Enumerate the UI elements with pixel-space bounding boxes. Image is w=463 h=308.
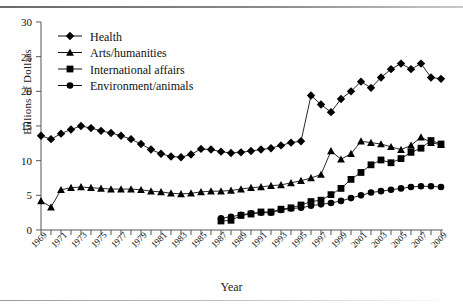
data-point-diamond xyxy=(237,148,245,156)
legend-marker-diamond xyxy=(66,32,74,40)
data-point-triangle xyxy=(357,137,365,144)
legend-marker-circle xyxy=(67,82,74,89)
data-point-diamond xyxy=(257,145,265,153)
data-point-circle xyxy=(418,183,425,190)
data-point-circle xyxy=(268,209,275,216)
y-tick-label: 0 xyxy=(27,224,33,236)
data-point-diamond xyxy=(407,65,415,73)
x-tick-label: 1975 xyxy=(89,230,109,250)
x-tick-label: 1987 xyxy=(209,230,229,250)
data-point-triangle xyxy=(317,171,325,178)
legend-label: Environment/animals xyxy=(90,79,194,93)
data-point-circle xyxy=(368,189,375,196)
chart-legend: HealthArts/humanitiesInternational affai… xyxy=(58,30,194,94)
data-point-square xyxy=(368,161,375,168)
bottom-divider-rule xyxy=(0,300,463,301)
data-point-circle xyxy=(328,200,335,207)
data-point-circle xyxy=(378,188,385,195)
data-point-triangle xyxy=(37,197,45,204)
x-tick-label: 1979 xyxy=(129,230,149,250)
data-point-diamond xyxy=(37,132,45,140)
data-point-triangle xyxy=(77,183,85,190)
x-tick-label: 1983 xyxy=(169,230,189,250)
data-point-diamond xyxy=(167,152,175,160)
data-point-diamond xyxy=(197,145,205,153)
data-point-square xyxy=(418,145,425,152)
data-point-circle xyxy=(398,185,405,192)
data-point-diamond xyxy=(137,140,145,148)
data-point-diamond xyxy=(77,122,85,130)
data-point-circle xyxy=(388,186,395,193)
data-point-diamond xyxy=(67,125,75,133)
legend-marker-square xyxy=(67,66,74,73)
data-point-circle xyxy=(228,214,235,221)
data-point-triangle xyxy=(417,133,425,140)
data-point-circle xyxy=(218,215,225,222)
data-point-square xyxy=(358,169,365,176)
data-point-square xyxy=(438,141,445,148)
data-point-diamond xyxy=(217,147,225,155)
data-point-square xyxy=(388,159,395,166)
chart-figure: Billions of Dollars Year 051015202530196… xyxy=(0,8,463,300)
x-tick-label: 1999 xyxy=(329,230,349,250)
data-point-triangle xyxy=(327,147,335,154)
data-point-square xyxy=(408,149,415,156)
y-tick-label: 5 xyxy=(27,189,33,201)
x-tick-label: 1969 xyxy=(29,230,49,250)
x-tick-label: 1997 xyxy=(309,230,329,250)
data-point-circle xyxy=(348,195,355,202)
data-point-circle xyxy=(298,205,305,212)
data-point-circle xyxy=(288,205,295,212)
data-point-diamond xyxy=(107,129,115,137)
x-tick-label: 1989 xyxy=(229,230,249,250)
data-point-circle xyxy=(428,183,435,190)
y-tick-label: 30 xyxy=(21,16,33,28)
y-tick-label: 10 xyxy=(21,155,33,167)
data-point-diamond xyxy=(327,108,335,116)
x-tick-label: 2007 xyxy=(409,230,429,250)
x-tick-label: 1971 xyxy=(49,230,69,250)
data-point-diamond xyxy=(127,135,135,143)
data-point-diamond xyxy=(247,147,255,155)
data-point-circle xyxy=(438,184,445,191)
x-tick-label: 1973 xyxy=(69,230,89,250)
data-point-circle xyxy=(308,202,315,209)
y-tick-label: 20 xyxy=(21,85,33,97)
data-point-diamond xyxy=(117,132,125,140)
data-point-triangle xyxy=(47,203,55,210)
series-arts-humanities xyxy=(37,133,445,210)
x-tick-label: 2005 xyxy=(389,230,409,250)
data-point-diamond xyxy=(97,127,105,135)
x-tick-label: 2003 xyxy=(369,230,389,250)
data-point-diamond xyxy=(337,95,345,103)
legend-label: International affairs xyxy=(90,63,185,77)
x-tick-label: 1985 xyxy=(189,230,209,250)
x-tick-label: 2001 xyxy=(349,230,369,250)
data-point-diamond xyxy=(157,150,165,158)
data-point-diamond xyxy=(187,150,195,158)
data-point-square xyxy=(398,155,405,162)
data-point-diamond xyxy=(397,59,405,67)
data-point-diamond xyxy=(427,73,435,81)
legend-label: Health xyxy=(90,30,122,44)
data-point-circle xyxy=(408,184,415,191)
data-point-diamond xyxy=(267,144,275,152)
data-point-square xyxy=(338,185,345,192)
data-point-diamond xyxy=(177,153,185,161)
data-point-circle xyxy=(258,209,265,216)
x-tick-label: 1991 xyxy=(249,230,269,250)
data-point-diamond xyxy=(227,149,235,157)
series-line xyxy=(41,137,441,207)
x-tick-label: 1977 xyxy=(109,230,129,250)
x-tick-label: 1981 xyxy=(149,230,169,250)
x-tick-label: 1993 xyxy=(269,230,289,250)
y-tick-label: 15 xyxy=(21,120,33,132)
data-point-diamond xyxy=(47,135,55,143)
data-point-diamond xyxy=(287,138,295,146)
data-point-square xyxy=(348,176,355,183)
data-point-diamond xyxy=(207,145,215,153)
data-point-diamond xyxy=(277,141,285,149)
data-point-circle xyxy=(238,211,245,218)
chart-plot-area: 0510152025301969197119731975197719791981… xyxy=(0,8,463,300)
legend-label: Arts/humanities xyxy=(90,46,167,60)
